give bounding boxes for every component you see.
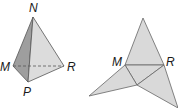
label-m-left: M xyxy=(0,60,10,74)
label-r-right: R xyxy=(166,55,175,69)
pyramid-figure: N M R P xyxy=(0,1,76,99)
label-p: P xyxy=(23,85,31,99)
label-m-right: M xyxy=(112,55,122,69)
net-figure: M R xyxy=(89,18,178,108)
net-face-top xyxy=(125,18,164,65)
label-n: N xyxy=(29,1,38,15)
diagram-canvas: N M R P M R xyxy=(0,0,178,108)
pyramid-face-npr xyxy=(28,17,64,82)
label-r-left: R xyxy=(67,60,76,74)
